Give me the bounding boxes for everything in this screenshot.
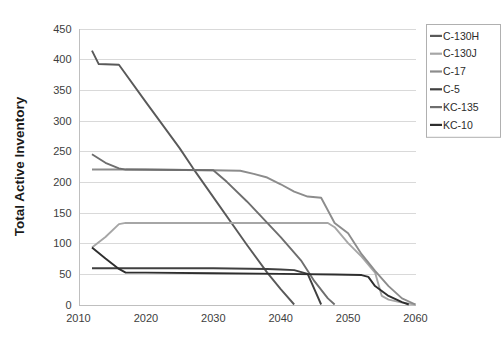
y-tick-label-300: 300 [53, 115, 71, 127]
chart-legend: C-130HC-130JC-17C-5KC-135KC-10 [427, 25, 501, 138]
legend-label-c-130h: C-130H [443, 30, 479, 42]
y-tick-label-150: 150 [53, 207, 71, 219]
line-chart: 050100150200250300350400450 201020202030… [0, 0, 502, 347]
x-tick-label-2010: 2010 [66, 312, 90, 324]
legend-label-kc-135: KC-135 [443, 101, 479, 113]
chart-container: 050100150200250300350400450 201020202030… [0, 0, 502, 347]
y-tick-label-450: 450 [53, 23, 71, 35]
y-tick-label-0: 0 [65, 299, 71, 311]
y-tick-label-250: 250 [53, 145, 71, 157]
y-axis-title: Total Active Inventory [12, 96, 27, 236]
x-tick-label-2020: 2020 [134, 312, 158, 324]
y-tick-label-100: 100 [53, 237, 71, 249]
y-tick-label-400: 400 [53, 53, 71, 65]
x-tick-label-2030: 2030 [201, 312, 225, 324]
y-tick-label-350: 350 [53, 84, 71, 96]
legend-label-c-17: C-17 [443, 65, 466, 77]
x-tick-label-2060: 2060 [403, 312, 427, 324]
legend-label-c-130j: C-130J [443, 47, 477, 59]
y-tick-label-50: 50 [59, 268, 71, 280]
legend-label-c-5: C-5 [443, 83, 460, 95]
legend-label-kc-10: KC-10 [443, 119, 473, 131]
x-tick-label-2040: 2040 [268, 312, 292, 324]
y-tick-label-200: 200 [53, 176, 71, 188]
x-tick-label-2050: 2050 [336, 312, 360, 324]
y-axis-title-text: Total Active Inventory [12, 96, 27, 236]
